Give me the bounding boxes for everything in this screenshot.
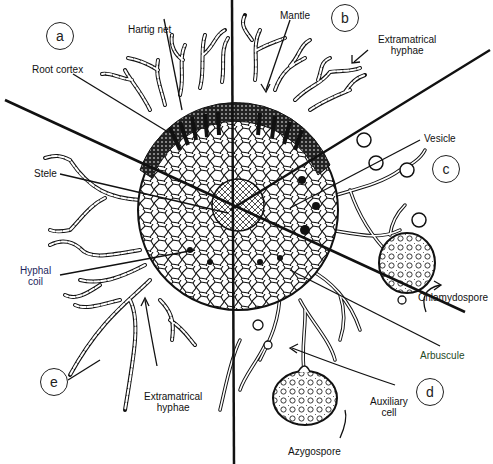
azygospore [273,371,337,425]
section-marker-a: a [46,22,74,50]
label-chlamydospore: Chlamydospore [418,292,488,303]
vesicles [357,133,426,227]
label-auxiliary-cell: Auxiliary cell [370,396,408,418]
section-marker-c: c [432,155,460,183]
label-mantle: Mantle [280,10,310,21]
label-root-cortex: Root cortex [32,64,83,75]
label-azygospore: Azygospore [288,446,341,457]
section-marker-d: d [416,378,444,406]
label-line-1: Extramatrical [378,34,436,45]
label-line-2: hyphae [144,402,202,413]
label-extramatrical-hyphae-bottom: Extramatrical hyphae [144,391,202,413]
section-marker-b: b [331,4,359,32]
label-line-2: coil [20,276,51,287]
label-hyphal-coil: Hyphal coil [20,265,51,287]
label-line-1: Hyphal [20,265,51,276]
section-marker-e: e [40,368,68,396]
label-vesicle: Vesicle [424,133,456,144]
label-hartig-net: Hartig net [128,24,171,35]
label-stele: Stele [34,168,57,179]
label-extramatrical-hyphae-top: Extramatrical hyphae [378,34,436,56]
label-line-1: Auxiliary [370,396,408,407]
label-line-2: hyphae [378,45,436,56]
label-line-2: cell [370,407,408,418]
label-arbuscule: Arbuscule [420,350,464,361]
label-line-1: Extramatrical [144,391,202,402]
